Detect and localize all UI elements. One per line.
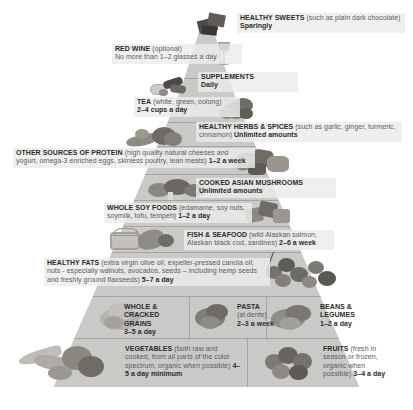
label-pasta: PASTA (al dente) 2–3 a week	[234, 302, 290, 330]
label-heading: FISH & SEAFOOD	[187, 231, 247, 238]
label-healthy-herbs-spices: HEALTHY HERBS & SPICES (such as garlic, …	[196, 122, 402, 142]
label-heading: TEA	[137, 98, 151, 105]
tier-divider	[93, 296, 321, 297]
label-amount: 1–2 a day	[320, 320, 352, 327]
label-whole-cracked-grains: WHOLE & CRACKED GRAINS 3–5 a day	[121, 302, 187, 338]
label-heading: WHOLE SOY FOODS	[107, 204, 177, 211]
label-body: (white, green, oolong)	[153, 98, 221, 105]
label-heading: PASTA	[237, 303, 260, 310]
label-heading: VEGETABLES	[125, 345, 172, 352]
label-heading: HEALTHY FATS	[47, 259, 99, 266]
label-supplements: SUPPLEMENTS Daily	[198, 72, 298, 92]
label-amount: Daily	[201, 81, 218, 88]
label-beans-legumes: BEANS & LEGUMES 1–2 a day	[317, 302, 379, 330]
label-body: (al dente)	[237, 311, 267, 318]
label-red-wine: RED WINE (optional) No more than 1–2 gla…	[112, 44, 242, 64]
label-amount: 2–4 cups a day	[137, 106, 187, 113]
label-amount: Unlimited amounts	[199, 187, 263, 194]
label-amount: 2–3 a week	[237, 320, 274, 327]
label-amount: 1–2 a day	[178, 212, 210, 219]
label-heading: HEALTHY SWEETS	[240, 14, 304, 21]
label-amount: Sparingly	[240, 22, 272, 29]
label-heading: COOKED ASIAN MUSHROOMS	[199, 179, 303, 186]
label-amount: 3–5 a day	[124, 328, 156, 335]
label-heading: BEANS & LEGUMES	[320, 303, 355, 318]
label-body: (optional)	[152, 45, 182, 52]
label-cooked-asian-mushrooms: COOKED ASIAN MUSHROOMS Unlimited amounts	[196, 178, 336, 198]
label-heading: HEALTHY HERBS & SPICES	[199, 123, 293, 130]
label-amount: Unlimited amounts	[234, 131, 298, 138]
label-fruits: FRUITS (fresh in season or frozen, organ…	[320, 344, 398, 380]
column-divider	[189, 297, 190, 338]
tier-divider	[145, 174, 267, 175]
label-vegetables: VEGETABLES (both raw and cooked, from al…	[122, 344, 244, 380]
label-heading: OTHER SOURCES OF PROTEIN	[16, 149, 123, 156]
label-amount: 3–4 a day	[353, 370, 385, 377]
label-amount: 5–7 a day	[142, 276, 174, 283]
label-fish-and-seafood: FISH & SEAFOOD (wild Alaskan salmon, Ala…	[184, 230, 334, 250]
label-other-sources-of-protein: OTHER SOURCES OF PROTEIN (high quality n…	[13, 148, 255, 168]
column-divider	[247, 339, 248, 387]
tier-divider	[123, 226, 290, 227]
tier-divider	[134, 200, 278, 201]
anti-inflammatory-food-pyramid: HEALTHY SWEETS (such as plain dark choco…	[0, 0, 413, 410]
label-heading: RED WINE	[115, 45, 150, 52]
label-whole-soy-foods: WHOLE SOY FOODS (edamame, soy nuts, soym…	[104, 203, 252, 223]
label-heading: FRUITS	[323, 345, 349, 352]
label-amount: 1–2 a week	[209, 157, 246, 164]
label-heading: SUPPLEMENTS	[201, 73, 254, 80]
label-amount: No more than 1–2 glasses a day	[115, 53, 217, 60]
label-healthy-sweets: HEALTHY SWEETS (such as plain dark choco…	[237, 13, 405, 33]
label-amount: 2–6 a week	[279, 239, 316, 246]
tier-divider	[74, 338, 339, 339]
tier-divider	[157, 146, 255, 147]
label-heading: WHOLE & CRACKED GRAINS	[124, 303, 159, 327]
label-tea: TEA (white, green, oolong) 2–4 cups a da…	[134, 97, 240, 117]
label-healthy-fats: HEALTHY FATS (extra virgin olive oil, ex…	[44, 258, 270, 286]
label-body: (such as plain dark chocolate)	[306, 14, 400, 21]
